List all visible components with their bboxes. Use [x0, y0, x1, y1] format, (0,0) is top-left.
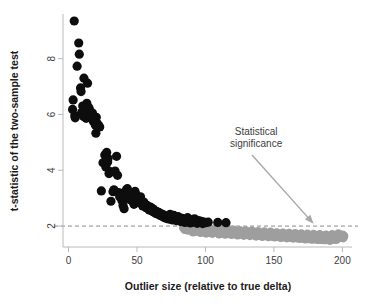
data-point — [74, 38, 83, 47]
x-axis-title: Outlier size (relative to true delta) — [125, 280, 291, 292]
data-point — [213, 218, 222, 227]
data-point — [119, 204, 128, 213]
data-point — [103, 154, 112, 163]
x-tick-label: 100 — [197, 255, 214, 266]
data-point — [83, 79, 92, 88]
y-tick-label: 4 — [46, 167, 57, 173]
y-axis-title: t-statistic of the two-sample test — [8, 50, 20, 211]
plot-background — [0, 0, 373, 306]
data-point — [204, 218, 213, 227]
x-tick-label: 150 — [266, 255, 283, 266]
x-tick-label: 200 — [334, 255, 351, 266]
x-tick-label: 0 — [66, 255, 72, 266]
data-point — [113, 171, 122, 180]
annotation-text-line: Statistical — [235, 126, 278, 137]
data-point — [76, 87, 85, 96]
data-point — [336, 233, 345, 242]
data-point — [75, 50, 84, 59]
data-point — [69, 95, 78, 104]
data-point — [97, 186, 106, 195]
plot-canvas: 050100150200 2468 Statisticalsignificanc… — [0, 0, 373, 306]
data-point — [91, 129, 100, 138]
y-tick-label: 2 — [46, 223, 57, 229]
data-point — [221, 218, 230, 227]
y-tick-label: 8 — [46, 55, 57, 61]
data-point — [106, 197, 115, 206]
scatter-plot-figure: 050100150200 2468 Statisticalsignificanc… — [0, 0, 373, 306]
data-point — [112, 152, 121, 161]
x-tick-label: 50 — [131, 255, 143, 266]
data-point — [70, 16, 79, 25]
annotation-text-line: significance — [230, 138, 283, 149]
y-tick-label: 6 — [46, 111, 57, 117]
data-point — [73, 62, 82, 71]
